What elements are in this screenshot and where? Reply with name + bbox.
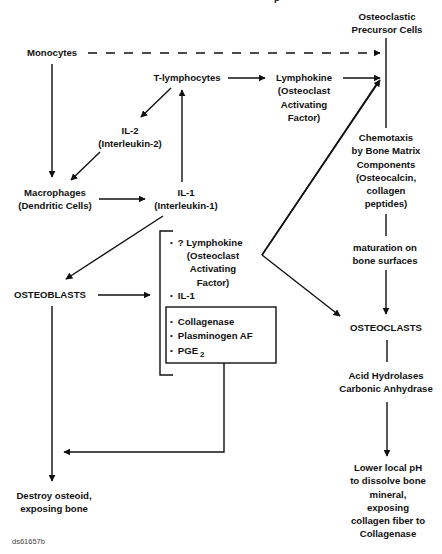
node-il2: IL-2 (Interleukin-2): [98, 124, 161, 151]
node-osteoclasts: OSTEOCLASTS: [350, 321, 422, 334]
node-lymphokine: Lymphokine (Osteoclast Activating Factor…: [276, 71, 332, 124]
arrow-il1-to-osteoblasts: [66, 216, 163, 279]
bracket-item-lymphokine-detail: (Osteoclast Activating Factor): [187, 249, 239, 289]
arrow-box-to-destroy: [64, 363, 224, 452]
node-osteoclastic-precursor: Osteoclastic Precursor Cells: [352, 10, 423, 37]
arrow-il2-to-macrophages: [71, 152, 100, 180]
bone-resorption-diagram: p Monocytes Osteoclastic Precursor Cells…: [0, 0, 442, 554]
node-monocytes: Monocytes: [27, 46, 77, 59]
node-maturation: maturation on bone surfaces: [352, 241, 417, 268]
node-chemotaxis: Chemotaxis by Bone Matrix Components (Os…: [352, 131, 421, 211]
footer-id: ds61657b: [12, 535, 45, 548]
bracket-item-il1: IL-1: [170, 289, 195, 303]
box-item-plasminogen: Plasminogen AF: [170, 329, 253, 343]
box-item-pge: PGE2: [170, 344, 253, 361]
node-destroy-osteoid: Destroy osteoid, exposing bone: [16, 489, 91, 516]
node-macrophages: Macrophages (Dendritic Cells): [18, 186, 92, 213]
box-items: Collagenase Plasminogen AF PGE2: [170, 315, 253, 361]
node-il1: IL-1 (Interleukin-1): [154, 186, 217, 213]
node-acid-hydrolases: Acid Hydrolases Carbonic Anhydrase: [339, 369, 432, 396]
arrow-tlymph-to-il2: [141, 88, 171, 117]
node-osteoblasts: OSTEOBLASTS: [14, 288, 86, 301]
node-t-lymphocytes: T-lymphocytes: [153, 71, 220, 84]
box-item-collagenase: Collagenase: [170, 315, 253, 329]
title-fragment: p: [274, 0, 280, 4]
node-lower-ph: Lower local pH to dissolve bone mineral,…: [350, 461, 426, 541]
